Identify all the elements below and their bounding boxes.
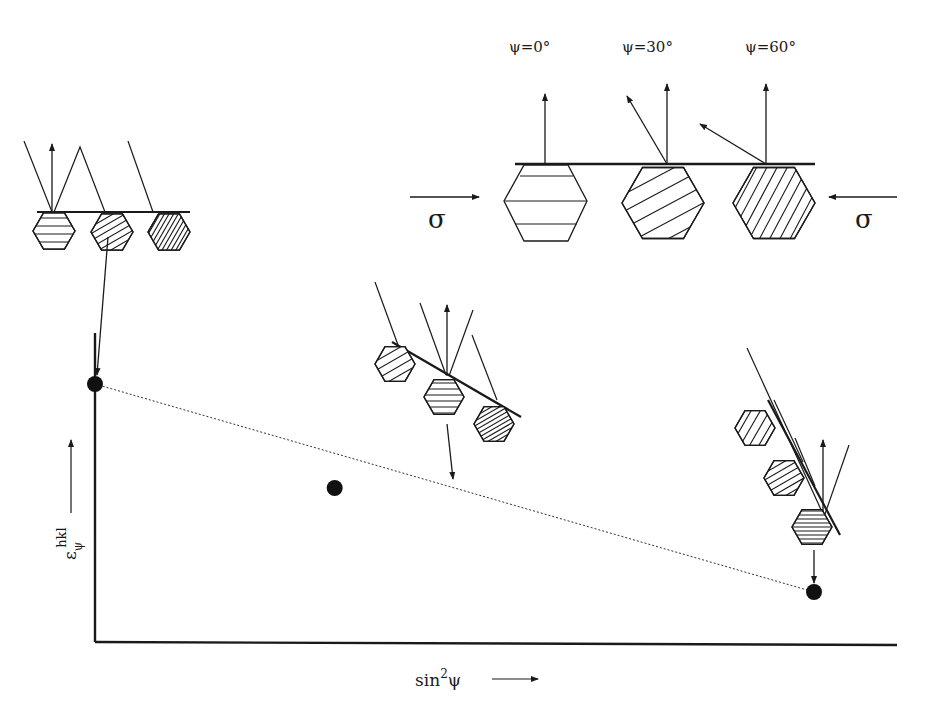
incident-beam-2	[420, 303, 446, 375]
pointer-arrow-psi-30	[447, 424, 453, 479]
sin2psi-diagram: ψ=0° ψ=30° ψ=60° σ σ	[0, 0, 925, 721]
tilt-label-psi-60: ψ=60°	[745, 38, 796, 56]
tilt-label-psi-0: ψ=0°	[509, 38, 550, 56]
grain-hexagon-psi-0	[23, 210, 86, 250]
grain-hexagon-c	[782, 507, 842, 547]
inset-psi-0	[23, 141, 202, 375]
y-label-main: ε	[60, 551, 80, 560]
grain-psi-0	[504, 165, 587, 241]
diffracted-beam	[449, 310, 473, 376]
y-axis-label: εψhkl	[54, 440, 85, 560]
grain-hexagon	[589, 138, 733, 262]
x-axis	[95, 642, 897, 645]
grain-hexagon-a	[723, 392, 788, 464]
tilt-label-psi-30: ψ=30°	[622, 38, 673, 56]
plot-axes: εψhkl sin2ψ	[54, 333, 897, 690]
top-panel: ψ=0° ψ=30° ψ=60° σ σ	[410, 38, 897, 276]
incident-beam-2	[774, 400, 803, 462]
incident-beam	[375, 282, 398, 345]
grain-hexagon-b	[414, 377, 474, 414]
data-point-psi-30	[327, 480, 343, 496]
diffraction-vector-psi-30	[627, 96, 667, 164]
stress-label-right: σ	[855, 204, 873, 234]
incident-beam	[24, 141, 52, 212]
diffraction-vector-psi-60	[700, 124, 766, 164]
inset-psi-30	[359, 282, 530, 479]
grain-hexagon-a	[359, 332, 431, 397]
incident-beam-2	[128, 141, 153, 212]
diffracted-beam	[825, 445, 849, 514]
x-axis-label: sin2ψ	[415, 667, 461, 690]
x-label-tail: ψ	[448, 670, 461, 690]
x-label-main: sin	[415, 670, 440, 690]
y-label-sub: ψ	[71, 542, 85, 551]
fit-line	[95, 384, 814, 592]
grain-hexagon	[709, 129, 838, 276]
diffracted-beam	[54, 147, 105, 212]
svg-text:εψhkl: εψhkl	[54, 527, 85, 560]
y-label-sup: hkl	[54, 527, 69, 547]
grain-hexagon-psi-30	[74, 198, 150, 266]
grain-psi-30	[589, 138, 733, 262]
pointer-arrow-psi-0	[97, 237, 108, 375]
data-point-psi-60	[806, 584, 822, 600]
stress-label-left: σ	[428, 204, 446, 234]
data-point-psi-0	[87, 376, 103, 392]
grain-hexagon-psi-60	[135, 194, 201, 269]
grain-psi-60	[709, 129, 838, 276]
inset-psi-60	[723, 348, 849, 583]
x-label-sup: 2	[440, 667, 448, 681]
